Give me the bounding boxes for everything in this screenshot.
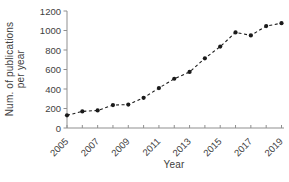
data-point [233,30,237,34]
data-line [67,23,282,115]
data-point [172,77,176,81]
plot-area: 0200400600800100012002005200720092011201… [0,0,289,182]
data-point [96,108,100,112]
y-tick-label: 200 [45,103,61,114]
y-tick-label: 800 [45,45,61,56]
data-point [157,86,161,90]
data-point [187,70,191,74]
data-point [142,96,146,100]
y-tick-label: 0 [56,123,61,134]
y-tick-label: 600 [45,64,61,75]
x-axis-title: Year [163,159,184,170]
x-tick-label: 2011 [140,136,162,158]
y-tick-label: 400 [45,84,61,95]
publications-line-chart: Num. of publications per year 0200400600… [0,0,289,182]
x-tick-label: 2013 [170,136,193,159]
data-point [126,103,130,107]
x-tick-label: 2005 [48,136,71,159]
x-tick-label: 2017 [232,136,255,159]
y-tick-label: 1000 [40,25,61,36]
x-tick-label: 2007 [78,136,101,159]
data-point [249,33,253,37]
x-tick-label: 2019 [262,136,285,159]
data-point [218,44,222,48]
data-point [65,113,69,117]
data-point [279,21,283,25]
x-tick-label: 2009 [109,136,132,159]
data-point [264,24,268,28]
data-point [203,56,207,60]
data-point [111,103,115,107]
y-tick-label: 1200 [40,6,61,17]
data-point [80,109,84,113]
x-tick-label: 2015 [201,136,224,159]
